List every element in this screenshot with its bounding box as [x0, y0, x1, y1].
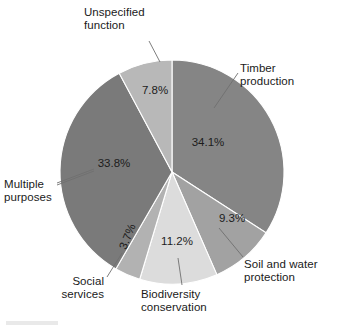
category-label-unspecified-function: Unspecified function — [84, 6, 145, 33]
pct-label-multiple: 33.8% — [98, 157, 131, 169]
pct-label-unspecified: 7.8% — [142, 84, 168, 96]
pct-label-soil: 9.3% — [219, 212, 245, 224]
category-label-timber-production: Timber production — [240, 62, 294, 89]
category-label-social-services: Social services — [36, 275, 104, 302]
pie-slices-group — [60, 60, 284, 284]
pie-chart: 34.1% 9.3% 11.2% 3.7% 33.8% 7.8% Unspeci… — [0, 0, 345, 326]
pct-label-biodiversity: 11.2% — [161, 235, 193, 247]
category-label-biodiversity-conservation: Biodiversity conservation — [141, 288, 207, 315]
category-label-multiple-purposes: Multiple purposes — [4, 178, 52, 205]
pct-label-timber: 34.1% — [192, 136, 225, 148]
leader-line-unspecified — [149, 41, 160, 62]
footer-rule — [6, 321, 58, 325]
category-label-soil-and-water-protection: Soil and water protection — [244, 258, 318, 285]
